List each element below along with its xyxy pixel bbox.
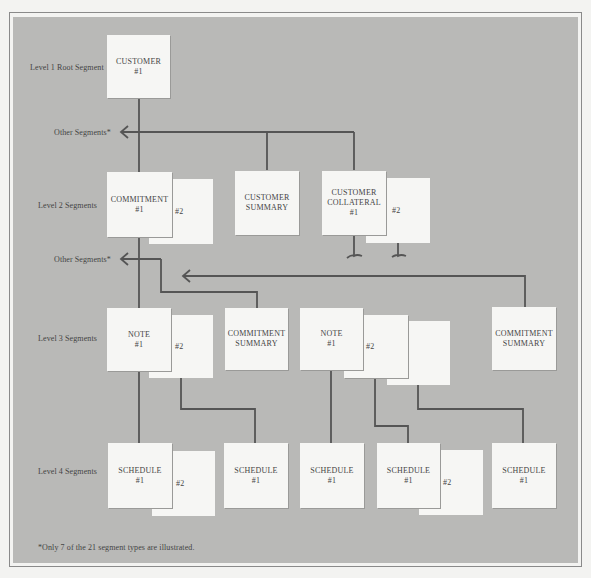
footnote: *Only 7 of the 21 segment types are illu…	[38, 543, 195, 552]
segment-number: #2	[443, 478, 451, 488]
segment-number: #1	[520, 476, 528, 486]
segment-name-line1: CUSTOMER	[331, 188, 376, 198]
segment-name-line1: CUSTOMER	[244, 193, 289, 203]
segment-commitment-1: COMMITMENT #1	[107, 172, 172, 237]
other-segments-label-1: Other Segments*	[54, 128, 111, 137]
segment-number: #2	[175, 342, 183, 352]
segment-number: #1	[327, 339, 335, 349]
other-segments-label-2: Other Segments*	[54, 255, 111, 264]
level4-label: Level 4 Segments	[38, 467, 97, 476]
segment-name-line1: COMMITMENT	[495, 329, 553, 339]
segment-number: #2	[366, 342, 374, 352]
segment-customer-summary: CUSTOMER SUMMARY	[235, 171, 299, 235]
segment-number: #1	[134, 67, 142, 77]
segment-name: SCHEDULE	[387, 466, 430, 476]
segment-number: #1	[135, 340, 143, 350]
level1-label: Level 1 Root Segment	[30, 63, 104, 72]
segment-number: #2	[175, 207, 183, 217]
segment-number: #1	[404, 476, 412, 486]
segment-schedule-d-1: SCHEDULE #1	[377, 443, 440, 508]
segment-schedule-a-1: SCHEDULE #1	[108, 443, 172, 508]
segment-name: NOTE	[128, 330, 150, 340]
segment-name-line1: COMMITMENT	[228, 329, 286, 339]
segment-schedule-c: SCHEDULE #1	[300, 443, 364, 508]
segment-number: #2	[392, 206, 400, 216]
segment-name: COMMITMENT	[111, 195, 169, 205]
level3-label: Level 3 Segments	[38, 334, 97, 343]
segment-number: #1	[252, 476, 260, 486]
segment-number: #1	[135, 205, 143, 215]
segment-name: CUSTOMER	[116, 57, 161, 67]
segment-name: SCHEDULE	[234, 466, 277, 476]
segment-schedule-b: SCHEDULE #1	[224, 443, 288, 508]
segment-name: SCHEDULE	[502, 466, 545, 476]
segment-customer-collateral-1: CUSTOMER COLLATERAL #1	[322, 171, 386, 235]
segment-name-line2: SUMMARY	[235, 339, 277, 349]
segment-number: #2	[176, 479, 184, 489]
segment-name: SCHEDULE	[310, 466, 353, 476]
segment-note-a-1: NOTE #1	[107, 308, 171, 371]
segment-number: #1	[328, 476, 336, 486]
segment-name: NOTE	[320, 329, 342, 339]
segment-number: #1	[136, 476, 144, 486]
segment-name: SCHEDULE	[118, 466, 161, 476]
segment-name-line2: COLLATERAL	[327, 198, 381, 208]
segment-number: #1	[350, 208, 358, 218]
segment-name-line2: SUMMARY	[503, 339, 545, 349]
segment-commitment-summary-a: COMMITMENT SUMMARY	[225, 308, 288, 370]
segment-note-b-1: NOTE #1	[300, 308, 363, 370]
segment-name-line2: SUMMARY	[246, 203, 288, 213]
segment-commitment-summary-b: COMMITMENT SUMMARY	[492, 307, 556, 370]
level2-label: Level 2 Segments	[38, 201, 97, 210]
segment-customer: CUSTOMER #1	[107, 35, 170, 98]
segment-schedule-e: SCHEDULE #1	[492, 443, 556, 508]
